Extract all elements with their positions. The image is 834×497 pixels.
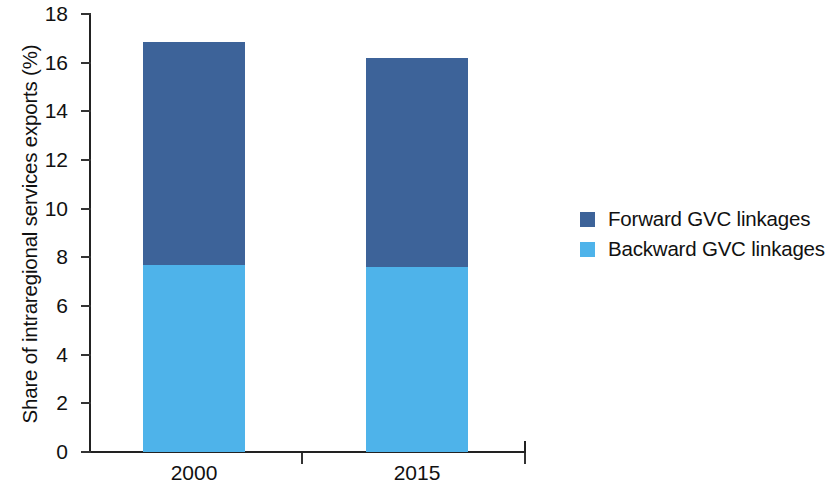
legend-item[interactable]: Forward GVC linkages — [580, 204, 825, 234]
legend-swatch — [580, 242, 595, 257]
y-tick-label: 8 — [0, 246, 68, 267]
y-tick-label: 0 — [0, 441, 68, 462]
y-tick-mark — [81, 62, 91, 64]
y-tick-label-wrap: 14 — [0, 111, 76, 112]
y-tick-label-wrap: 12 — [0, 160, 76, 161]
bar-segment — [366, 267, 468, 452]
x-axis-end-tick — [524, 441, 526, 453]
x-tick-label: 2000 — [134, 462, 254, 483]
stacked-bar-chart: Share of intraregional services exports … — [0, 0, 834, 497]
x-tick-mark — [524, 453, 526, 464]
y-tick-label-wrap: 0 — [0, 452, 76, 453]
bar-segment — [143, 42, 245, 265]
y-tick-mark — [81, 451, 91, 453]
y-tick-label: 16 — [0, 52, 68, 73]
y-tick-mark — [81, 13, 91, 15]
legend-label: Forward GVC linkages — [608, 207, 810, 231]
y-tick-label: 14 — [0, 100, 68, 121]
y-axis-line — [89, 13, 91, 453]
y-tick-label-wrap: 18 — [0, 14, 76, 15]
y-tick-label-wrap: 16 — [0, 63, 76, 64]
x-tick-mark — [301, 453, 303, 464]
x-tick-label: 2015 — [357, 462, 477, 483]
y-tick-label: 12 — [0, 149, 68, 170]
legend-label: Backward GVC linkages — [608, 237, 825, 261]
y-tick-mark — [81, 402, 91, 404]
y-tick-label: 6 — [0, 295, 68, 316]
y-tick-mark — [81, 305, 91, 307]
bar-segment — [143, 265, 245, 452]
y-tick-label-wrap: 10 — [0, 209, 76, 210]
legend-item[interactable]: Backward GVC linkages — [580, 234, 825, 264]
bar-stack — [143, 42, 245, 452]
y-tick-mark — [81, 256, 91, 258]
y-tick-label-wrap: 6 — [0, 306, 76, 307]
y-tick-mark — [81, 159, 91, 161]
bar-segment — [366, 58, 468, 267]
y-tick-label-wrap: 8 — [0, 257, 76, 258]
y-tick-mark — [81, 354, 91, 356]
legend-swatch — [580, 212, 595, 227]
y-tick-label: 18 — [0, 3, 68, 24]
chart-legend: Forward GVC linkagesBackward GVC linkage… — [580, 204, 825, 264]
y-tick-label-wrap: 4 — [0, 355, 76, 356]
y-tick-mark — [81, 110, 91, 112]
y-tick-label: 2 — [0, 392, 68, 413]
y-tick-label: 4 — [0, 344, 68, 365]
y-tick-mark — [81, 208, 91, 210]
bar-stack — [366, 58, 468, 452]
y-tick-label-wrap: 2 — [0, 403, 76, 404]
y-tick-label: 10 — [0, 198, 68, 219]
